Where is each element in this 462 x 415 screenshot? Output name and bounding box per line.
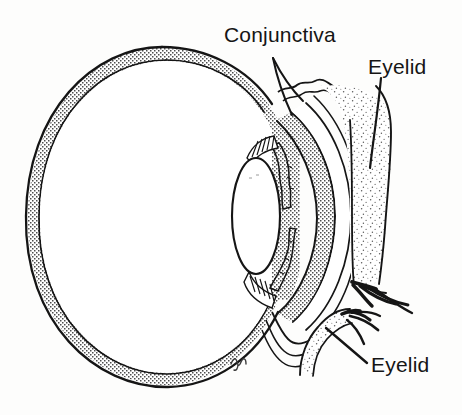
conjunctiva-leader-line [273, 58, 303, 115]
upper-eyelashes [352, 282, 412, 313]
label-eyelid-upper: Eyelid [368, 56, 426, 77]
label-conjunctiva: Conjunctiva [224, 24, 336, 45]
eyelid-lower-leader-line [326, 328, 367, 363]
lens [232, 158, 280, 274]
label-eyelid-lower: Eyelid [371, 354, 429, 375]
eye-diagram-figure: Conjunctiva Eyelid Eyelid [0, 0, 462, 415]
